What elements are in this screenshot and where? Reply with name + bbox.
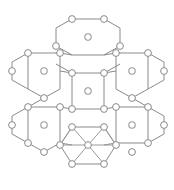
vertex-node xyxy=(25,50,32,57)
vertex-node xyxy=(161,122,168,129)
vertex-node xyxy=(69,70,76,77)
center-dot-lower-left-hexagon xyxy=(41,122,47,128)
center-dot-middle-hexagon xyxy=(85,88,91,94)
vertex-node xyxy=(69,124,76,131)
center-dot-upper-left-hexagon xyxy=(41,68,47,74)
vertex-node xyxy=(69,16,76,23)
vertex-node xyxy=(101,161,108,168)
vertex-node xyxy=(41,149,48,156)
vertex-node xyxy=(113,50,120,57)
center-dot-upper-right-hexagon xyxy=(129,68,135,74)
vertex-node xyxy=(101,106,108,113)
vertex-node xyxy=(113,142,120,149)
center-dot-lower-right-hexagon xyxy=(129,122,135,128)
vertex-node xyxy=(69,161,76,168)
vertex-node xyxy=(25,104,32,111)
vertex-node xyxy=(57,50,64,57)
vertex-node xyxy=(9,122,16,129)
vertex-node xyxy=(101,124,108,131)
lattice-figure xyxy=(0,0,174,190)
vertex-node xyxy=(101,70,108,77)
vertex-node xyxy=(117,43,124,50)
center-dot-top-hexagon xyxy=(85,34,91,40)
vertex-node xyxy=(41,95,48,102)
vertex-node xyxy=(57,142,64,149)
vertex-node xyxy=(145,104,152,111)
vertex-node xyxy=(161,68,168,75)
vertex-node xyxy=(129,95,136,102)
vertex-node xyxy=(129,149,136,156)
edge-ul-hex-left-lower xyxy=(12,80,28,89)
vertex-node xyxy=(113,104,120,111)
vertex-node xyxy=(101,16,108,23)
hexagonal-lattice-svg xyxy=(0,0,174,190)
vertex-node xyxy=(57,104,64,111)
vertex-node xyxy=(53,43,60,50)
vertex-node xyxy=(69,106,76,113)
edge-ur-hex-lower-right xyxy=(148,80,164,89)
vertex-node xyxy=(9,68,16,75)
vertex-node-bottom-hexagon-center xyxy=(85,142,92,149)
vertex-node xyxy=(145,50,152,57)
vertex-node xyxy=(25,140,32,147)
vertex-node xyxy=(145,140,152,147)
